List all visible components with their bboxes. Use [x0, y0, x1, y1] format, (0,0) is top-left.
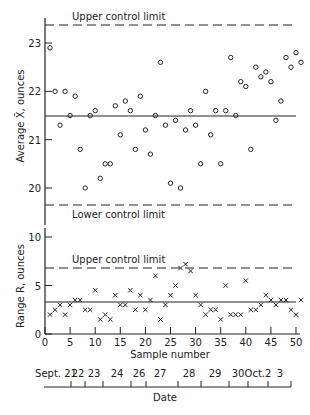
range-point: [168, 293, 172, 297]
xbar-point: [108, 162, 112, 166]
range-point: [48, 312, 52, 316]
xbar-point: [78, 147, 82, 151]
range-point: [264, 293, 268, 297]
range-point: [83, 308, 87, 312]
range-point: [203, 312, 207, 316]
xbar-point: [239, 79, 243, 83]
x-axis-label: Sample number: [130, 349, 211, 360]
control-chart: Average X̄, ounces Upper control limit L…: [0, 0, 310, 415]
x-tick-label: 25: [164, 337, 177, 348]
xbar-points: [48, 46, 303, 191]
range-y-tick-label: 5: [35, 281, 41, 292]
xbar-point: [299, 60, 303, 64]
xbar-point: [188, 108, 192, 112]
date-tick-label: 23: [88, 368, 101, 379]
date-axis-label: Date: [153, 392, 177, 403]
range-point: [208, 308, 212, 312]
xbar-point: [63, 89, 67, 93]
xbar-point: [103, 162, 107, 166]
range-point: [123, 303, 127, 307]
range-point: [143, 308, 147, 312]
xbar-point: [269, 79, 273, 83]
xbar-point: [193, 123, 197, 127]
range-point: [88, 308, 92, 312]
xbar-chart: Average X̄, ounces Upper control limit L…: [14, 11, 303, 225]
range-point: [198, 303, 202, 307]
xbar-point: [244, 84, 248, 88]
range-y-ticks: 0510: [28, 232, 52, 340]
xbar-point: [68, 113, 72, 117]
range-point: [299, 298, 303, 302]
xbar-point: [123, 99, 127, 103]
xbar-y-tick-label: 21: [28, 135, 41, 146]
xbar-point: [198, 162, 202, 166]
x-tick-label: 40: [239, 337, 252, 348]
xbar-ucl-label: Upper control limit: [72, 11, 165, 22]
xbar-point: [118, 133, 122, 137]
xbar-point: [48, 46, 52, 50]
range-point: [153, 274, 157, 278]
range-point: [183, 262, 187, 266]
range-point: [68, 303, 72, 307]
xbar-point: [183, 128, 187, 132]
x-tick-label: 45: [265, 337, 278, 348]
range-point: [224, 283, 228, 287]
xbar-point: [208, 133, 212, 137]
xbar-point: [294, 50, 298, 54]
range-point: [113, 293, 117, 297]
xbar-point: [254, 65, 258, 69]
xbar-point: [133, 147, 137, 151]
range-point: [249, 308, 253, 312]
date-tick-label: 26: [133, 368, 146, 379]
x-tick-label: 20: [139, 337, 152, 348]
date-tick-label: 24: [111, 368, 124, 379]
date-tick-label: 30: [232, 368, 245, 379]
range-point: [163, 303, 167, 307]
xbar-y-tick-label: 20: [28, 183, 41, 194]
x-tick-label: 35: [214, 337, 227, 348]
xbar-point: [73, 94, 77, 98]
date-tick-label: 22: [72, 368, 85, 379]
xbar-point: [203, 89, 207, 93]
xbar-point: [98, 176, 102, 180]
range-ucl-label: Upper control limit: [72, 254, 165, 265]
x-tick-label: 10: [89, 337, 102, 348]
range-point: [188, 269, 192, 273]
xbar-point: [88, 113, 92, 117]
range-point: [93, 288, 97, 292]
range-point: [274, 303, 278, 307]
x-tick-label: 0: [42, 337, 48, 348]
xbar-point: [284, 55, 288, 59]
range-point: [259, 303, 263, 307]
xbar-point: [259, 75, 263, 79]
range-point: [118, 303, 122, 307]
xbar-point: [289, 65, 293, 69]
xbar-point: [83, 186, 87, 190]
date-tick-label: 3: [277, 368, 283, 379]
xbar-point: [128, 108, 132, 112]
sample-number-ticks: 05101520253035404550: [42, 327, 303, 348]
range-y-tick-label: 0: [35, 329, 41, 340]
x-tick-label: 5: [67, 337, 73, 348]
range-point: [289, 308, 293, 312]
xbar-point: [163, 123, 167, 127]
date-axis: Sept. 212223242627282930Oct.23 Date: [35, 368, 291, 403]
range-point: [108, 317, 112, 321]
range-point: [98, 317, 102, 321]
xbar-point: [264, 70, 268, 74]
xbar-point: [113, 104, 117, 108]
xbar-point: [138, 94, 142, 98]
date-ticks: Sept. 212223242627282930Oct.23: [35, 368, 291, 387]
xbar-point: [178, 186, 182, 190]
range-point: [63, 312, 67, 316]
xbar-point: [143, 128, 147, 132]
range-point: [53, 308, 57, 312]
range-y-label: Range R, ounces: [15, 244, 26, 328]
range-point: [213, 308, 217, 312]
range-y-tick-label: 10: [28, 232, 41, 243]
range-point: [294, 312, 298, 316]
x-tick-label: 50: [290, 337, 303, 348]
xbar-point: [173, 118, 177, 122]
xbar-point: [279, 99, 283, 103]
xbar-point: [158, 60, 162, 64]
